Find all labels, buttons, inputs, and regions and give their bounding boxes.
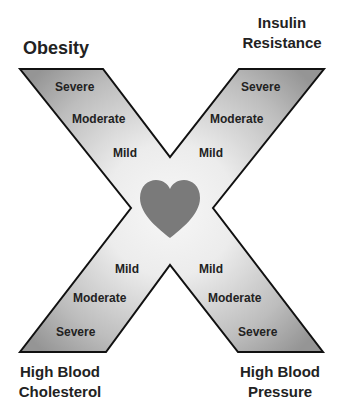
condition-label-line: Insulin [232,13,332,33]
level-mild: Mild [199,146,223,160]
level-mild: Mild [115,262,139,276]
level-severe: Severe [238,325,277,339]
level-moderate: Moderate [210,112,263,126]
condition-label-line: Resistance [232,33,332,53]
level-moderate: Moderate [73,291,126,305]
condition-obesity: Obesity [23,38,89,58]
x-diagram [0,0,340,416]
level-moderate: Moderate [208,291,261,305]
level-severe: Severe [56,325,95,339]
condition-label-line: Pressure [230,382,330,402]
condition-label-line: High Blood [230,362,330,382]
level-severe: Severe [241,80,280,94]
level-moderate: Moderate [72,112,125,126]
condition-label: Obesity [23,38,89,58]
condition-label-line: Cholesterol [10,382,110,402]
condition-insulin-resistance: Insulin Resistance [232,13,332,53]
condition-high-blood-pressure: High Blood Pressure [230,362,330,402]
level-mild: Mild [199,262,223,276]
condition-high-blood-cholesterol: High Blood Cholesterol [10,362,110,402]
condition-label-line: High Blood [10,362,110,382]
level-mild: Mild [113,146,137,160]
level-severe: Severe [55,80,94,94]
